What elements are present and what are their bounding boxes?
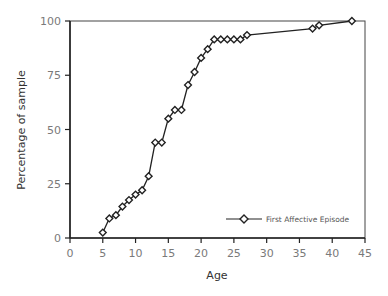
x-tick-label: 40 bbox=[325, 247, 339, 260]
plot-frame bbox=[70, 21, 365, 238]
legend-label: First Affective Episode bbox=[266, 215, 350, 224]
y-tick-label: 25 bbox=[47, 178, 61, 191]
series-line bbox=[103, 21, 352, 233]
line-chart: 0255075100 051015202530354045 Age Percen… bbox=[0, 0, 388, 296]
series-first-affective-episode bbox=[99, 18, 355, 236]
x-tick-label: 30 bbox=[260, 247, 274, 260]
y-tick-label: 0 bbox=[54, 232, 61, 245]
diamond-marker-icon bbox=[99, 229, 106, 236]
diamond-marker-icon bbox=[240, 215, 248, 223]
x-tick-label: 5 bbox=[99, 247, 106, 260]
x-axis-title: Age bbox=[206, 269, 228, 282]
diamond-marker-icon bbox=[348, 18, 355, 25]
x-tick-label: 10 bbox=[129, 247, 143, 260]
x-tick-label: 35 bbox=[292, 247, 306, 260]
x-axis-ticks: 051015202530354045 bbox=[67, 238, 373, 260]
x-tick-label: 0 bbox=[67, 247, 74, 260]
plot-border bbox=[70, 21, 365, 238]
y-axis-title: Percentage of sample bbox=[15, 70, 28, 190]
diamond-marker-icon bbox=[158, 139, 165, 146]
y-axis-ticks: 0255075100 bbox=[40, 15, 70, 245]
legend: First Affective Episode bbox=[226, 215, 350, 224]
diamond-marker-icon bbox=[316, 22, 323, 29]
diamond-marker-icon bbox=[185, 82, 192, 89]
y-tick-label: 75 bbox=[47, 69, 61, 82]
diamond-marker-icon bbox=[244, 32, 251, 39]
x-tick-label: 15 bbox=[161, 247, 175, 260]
x-tick-label: 25 bbox=[227, 247, 241, 260]
diamond-marker-icon bbox=[191, 69, 198, 76]
y-tick-label: 50 bbox=[47, 124, 61, 137]
diamond-marker-icon bbox=[309, 25, 316, 32]
y-tick-label: 100 bbox=[40, 15, 61, 28]
diamond-marker-icon bbox=[106, 215, 113, 222]
x-tick-label: 45 bbox=[358, 247, 372, 260]
x-tick-label: 20 bbox=[194, 247, 208, 260]
diamond-marker-icon bbox=[145, 173, 152, 180]
diamond-marker-icon bbox=[178, 107, 185, 114]
